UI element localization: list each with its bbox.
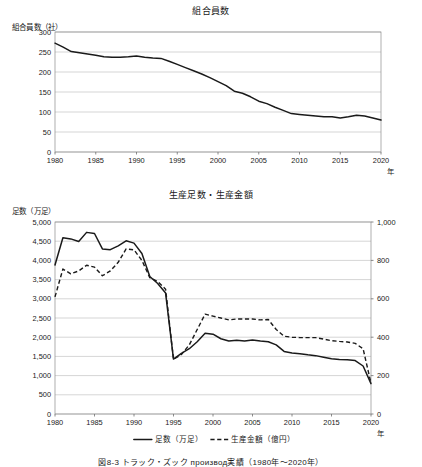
figure-caption: 図8-3 トラック・ズック производ実績（1980年〜2020年） bbox=[0, 456, 422, 467]
x-axis-tick-label: 2005 bbox=[251, 156, 267, 165]
x-axis-tick-label: 1980 bbox=[47, 418, 63, 427]
y-axis-tick-label-left: 4,000 bbox=[33, 256, 52, 265]
y-axis-tick-label-left: 2,000 bbox=[33, 333, 52, 342]
top-chart-plot: 0501001502002503001980198519901995200020… bbox=[0, 0, 422, 186]
x-axis-tick-label: 1995 bbox=[165, 418, 181, 427]
y-axis-tick-label-left: 5,000 bbox=[33, 218, 52, 227]
x-axis-tick-label: 2000 bbox=[210, 156, 226, 165]
legend-label-2: 生産金額（億円） bbox=[231, 434, 295, 444]
bottom-chart-svg: 05001,0001,5002,0002,5003,0003,5004,0004… bbox=[0, 186, 422, 466]
y-axis-tick-label-right: 200 bbox=[377, 371, 389, 380]
x-axis-tick-label: 1985 bbox=[88, 156, 104, 165]
y-axis-tick-label-left: 300 bbox=[39, 28, 51, 37]
x-axis-tick-label: 1990 bbox=[126, 418, 142, 427]
y-axis-tick-label-left: 100 bbox=[39, 108, 51, 117]
y-axis-tick-label-right: 0 bbox=[377, 410, 381, 419]
x-axis-tick-label: 1995 bbox=[169, 156, 185, 165]
x-axis-tick-label: 2015 bbox=[332, 156, 348, 165]
y-axis-tick-label-left: 250 bbox=[39, 48, 51, 57]
y-axis-tick-label-right: 600 bbox=[377, 294, 389, 303]
series-line-1 bbox=[55, 43, 381, 120]
chart-production: 生産足数・生産金額 足数（万足） 05001,0001,5002,0002,50… bbox=[0, 186, 422, 466]
x-axis-tick-label: 2020 bbox=[373, 156, 389, 165]
y-axis-tick-label-left: 3,000 bbox=[33, 294, 52, 303]
y-axis-tick-label-left: 500 bbox=[39, 390, 51, 399]
y-axis-tick-label-right: 1,000 bbox=[377, 218, 396, 227]
x-axis-tick-label: 1980 bbox=[47, 156, 63, 165]
x-axis-tick-label: 2005 bbox=[244, 418, 260, 427]
chart-union-members: 組合員数 組合員数（社） 050100150200250300198019851… bbox=[0, 0, 422, 186]
x-axis-tick-label: 2015 bbox=[323, 418, 339, 427]
y-axis-tick-label-left: 2,500 bbox=[33, 314, 52, 323]
y-axis-tick-label-left: 1,500 bbox=[33, 352, 52, 361]
x-axis-unit-label: 年 bbox=[387, 167, 395, 176]
x-axis-tick-label: 2020 bbox=[363, 418, 379, 427]
y-axis-tick-label-left: 200 bbox=[39, 68, 51, 77]
y-axis-tick-label-left: 4,500 bbox=[33, 237, 52, 246]
y-axis-tick-label-left: 150 bbox=[39, 88, 51, 97]
x-axis-tick-label: 1985 bbox=[86, 418, 102, 427]
x-axis-tick-label: 1990 bbox=[128, 156, 144, 165]
top-chart-svg: 0501001502002503001980198519901995200020… bbox=[0, 0, 422, 186]
bottom-chart-plot: 05001,0001,5002,0002,5003,0003,5004,0004… bbox=[0, 186, 422, 466]
y-axis-tick-label-left: 1,000 bbox=[33, 371, 52, 380]
series-line-2 bbox=[55, 249, 371, 383]
y-axis-tick-label-right: 800 bbox=[377, 256, 389, 265]
series-line-1 bbox=[55, 232, 371, 383]
y-axis-tick-label-left: 3,500 bbox=[33, 275, 52, 284]
x-axis-unit-label: 年 bbox=[377, 429, 385, 438]
x-axis-tick-label: 2000 bbox=[205, 418, 221, 427]
x-axis-tick-label: 2010 bbox=[284, 418, 300, 427]
x-axis-tick-label: 2010 bbox=[291, 156, 307, 165]
legend-label-1: 足数（万足） bbox=[155, 434, 203, 444]
chart-legend: 足数（万足）生産金額（億円） bbox=[134, 434, 296, 444]
y-axis-tick-label-right: 400 bbox=[377, 333, 389, 342]
y-axis-tick-label-left: 50 bbox=[43, 128, 51, 137]
